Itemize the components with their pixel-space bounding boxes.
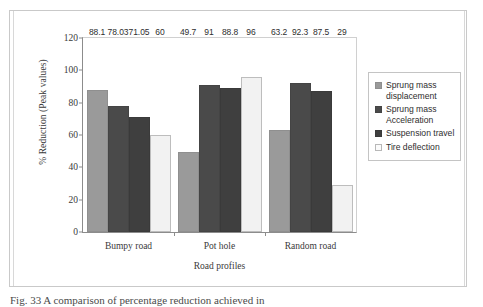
bar-value-label: 29 <box>337 27 346 37</box>
legend-item-label: Sprung mass Acceleration <box>386 104 455 125</box>
bar[interactable]: 78.03 <box>108 106 129 232</box>
x-axis-tick-label: Random road <box>285 241 336 251</box>
bar-group: 49.79188.896Pot hole <box>174 38 265 232</box>
legend-swatch-icon <box>375 130 382 137</box>
bar-value-label: 49.7 <box>180 27 196 37</box>
y-axis-tick-label: 60 <box>69 130 79 140</box>
bar-value-label: 60 <box>155 27 164 37</box>
bar[interactable]: 60 <box>150 135 171 232</box>
bar-value-label: 91 <box>204 27 213 37</box>
bar-slot: 88.1 <box>87 38 108 232</box>
bar-slot: 87.5 <box>311 38 332 232</box>
bar-value-label: 63.2 <box>271 27 287 37</box>
bar-slot: 71.05 <box>129 38 150 232</box>
bar-group-bars: 63.292.387.529 <box>265 38 356 232</box>
x-axis-title: Road profiles <box>82 261 357 271</box>
bar[interactable]: 91 <box>199 85 220 232</box>
figure-border: % Reduction (Peak values) 02040608010012… <box>9 10 467 287</box>
legend-swatch-icon <box>375 82 382 89</box>
x-axis-tick-mark <box>174 232 175 236</box>
y-axis-tick-label: 80 <box>69 98 79 108</box>
legend-item-label: Sprung mass displacement <box>386 80 455 101</box>
figure-page: % Reduction (Peak values) 02040608010012… <box>0 0 483 307</box>
x-axis-tick-mark <box>265 232 266 236</box>
bar-slot: 96 <box>241 38 262 232</box>
bar-slot: 49.7 <box>178 38 199 232</box>
bar-value-label: 87.5 <box>313 27 329 37</box>
bar[interactable]: 63.2 <box>269 130 290 232</box>
legend-swatch-icon <box>375 106 382 113</box>
legend-swatch-icon <box>375 144 382 151</box>
y-axis-tick-label: 0 <box>73 227 78 237</box>
y-axis-title: % Reduction (Peak values) <box>38 32 48 192</box>
bar[interactable]: 92.3 <box>290 83 311 232</box>
bar[interactable]: 96 <box>241 77 262 232</box>
bar-value-label: 96 <box>246 27 255 37</box>
legend-item-label: Tire deflection <box>386 142 440 153</box>
bar-slot: 60 <box>150 38 171 232</box>
y-axis-tick-label: 40 <box>69 162 79 172</box>
bar-slot: 92.3 <box>290 38 311 232</box>
legend-item[interactable]: Sprung mass Acceleration <box>375 104 455 125</box>
figure-caption: Fig. 33 A comparison of percentage reduc… <box>10 294 480 306</box>
bar-group-bars: 88.178.0371.0560 <box>83 38 174 232</box>
plot-area: 020406080100120 88.178.0371.0560Bumpy ro… <box>82 37 357 233</box>
bar-value-label: 92.3 <box>292 27 308 37</box>
bar[interactable]: 49.7 <box>178 152 199 232</box>
bar-slot: 78.03 <box>108 38 129 232</box>
chart-legend: Sprung mass displacementSprung mass Acce… <box>368 72 461 161</box>
x-axis-tick-label: Bumpy road <box>105 241 152 251</box>
bar-slot: 91 <box>199 38 220 232</box>
legend-item-label: Suspension travel <box>386 128 454 139</box>
bar-slot: 88.8 <box>220 38 241 232</box>
bar[interactable]: 88.1 <box>87 90 108 232</box>
y-axis-tick-label: 20 <box>69 195 79 205</box>
legend-item[interactable]: Suspension travel <box>375 128 455 139</box>
bar-value-label: 88.1 <box>89 27 105 37</box>
bar-group-bars: 49.79188.896 <box>174 38 265 232</box>
bar[interactable]: 71.05 <box>129 117 150 232</box>
bar-value-label: 71.05 <box>129 27 150 37</box>
bar-chart: % Reduction (Peak values) 02040608010012… <box>10 11 468 288</box>
x-axis-tick-label: Pot hole <box>204 241 235 251</box>
legend-item[interactable]: Tire deflection <box>375 142 455 153</box>
bar-group: 63.292.387.529Random road <box>265 38 356 232</box>
bar-slot: 63.2 <box>269 38 290 232</box>
bar[interactable]: 87.5 <box>311 91 332 232</box>
bar-group: 88.178.0371.0560Bumpy road <box>83 38 174 232</box>
y-axis-tick-label: 120 <box>64 33 78 43</box>
bar-value-label: 88.8 <box>222 27 238 37</box>
y-axis-tick-label: 100 <box>64 65 78 75</box>
bar[interactable]: 88.8 <box>220 88 241 232</box>
legend-item[interactable]: Sprung mass displacement <box>375 80 455 101</box>
bar-value-label: 78.03 <box>108 27 129 37</box>
bar[interactable]: 29 <box>332 185 353 232</box>
bar-slot: 29 <box>332 38 353 232</box>
